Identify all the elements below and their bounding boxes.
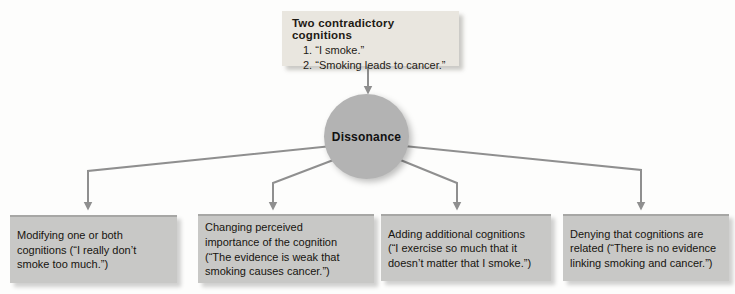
strategy-box-changing-importance: Changing perceived importance of the cog… xyxy=(198,214,374,283)
arrow-dissonance-to-strategy-3 xyxy=(398,159,457,202)
strategy-text: Modifying one or both cognitions (“I rea… xyxy=(17,228,136,272)
strategy-text: Changing perceived importance of the cog… xyxy=(205,220,340,278)
dissonance-node: Dissonance xyxy=(324,94,409,179)
strategy-box-adding-cognitions: Adding additional cognitions (“I exercis… xyxy=(381,214,551,281)
strategy-box-modifying-cognitions: Modifying one or both cognitions (“I rea… xyxy=(10,215,177,283)
cognition-item-1: 1. “I smoke.” xyxy=(303,44,451,56)
cognitive-dissonance-diagram: Two contradictory cognitions 1. “I smoke… xyxy=(0,0,735,294)
contradictory-cognitions-box: Two contradictory cognitions 1. “I smoke… xyxy=(282,11,459,66)
top-box-title: Two contradictory cognitions xyxy=(292,17,451,41)
arrow-dissonance-to-strategy-2 xyxy=(273,159,336,202)
strategy-box-denying-relation: Denying that cognitions are related (“Th… xyxy=(563,214,729,281)
dissonance-label: Dissonance xyxy=(332,130,401,144)
arrow-dissonance-to-strategy-4 xyxy=(404,146,641,202)
strategy-text: Adding additional cognitions (“I exercis… xyxy=(388,227,531,271)
cognition-item-2: 2. “Smoking leads to cancer.” xyxy=(303,59,451,71)
strategy-text: Denying that cognitions are related (“Th… xyxy=(570,227,716,271)
